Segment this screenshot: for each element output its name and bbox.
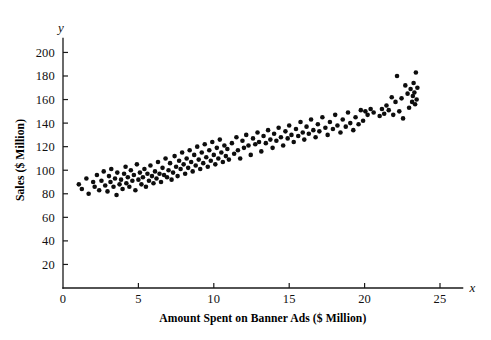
data-point [105,189,110,194]
data-point [91,180,96,185]
data-point [246,143,251,148]
data-point [340,117,345,122]
data-point [205,164,210,169]
data-point [240,138,245,143]
x-axis-title: Amount Spent on Banner Ads ($ Million) [159,312,366,325]
data-point [268,137,273,142]
data-point [224,154,229,159]
data-point [171,170,176,175]
data-point [283,129,288,134]
data-point [133,188,138,193]
data-point [386,108,391,113]
data-point [331,127,336,132]
data-point [177,159,182,164]
data-point [412,90,417,95]
data-point [309,117,314,122]
x-tick-label: 20 [358,292,371,306]
data-point [101,169,106,174]
data-point [80,187,85,192]
data-point [169,177,174,182]
data-point [180,150,185,155]
data-point [391,113,396,118]
data-point [264,141,269,146]
data-point [186,166,191,171]
data-point [276,126,281,131]
data-point [257,140,262,145]
data-point [382,111,387,116]
data-point [126,175,131,180]
data-point [99,179,104,184]
data-point [124,181,129,186]
data-point [174,164,179,169]
data-point [148,163,153,168]
data-point [408,87,413,92]
data-point [259,149,264,154]
data-point [154,176,159,181]
data-point [335,123,340,128]
data-point [187,148,192,153]
data-point [411,81,416,86]
data-point [279,135,284,140]
data-point [113,176,118,181]
data-point [190,169,195,174]
y-axis-title: Sales ($ Million) [14,119,27,201]
x-tick-label: 15 [283,292,296,306]
data-point [397,109,402,114]
data-point [168,161,173,166]
y-axis-variable-label: y [56,20,64,35]
data-point [399,96,404,101]
data-point [166,168,171,173]
data-point [92,184,97,189]
data-point [270,146,275,151]
data-point [384,103,389,108]
data-point [130,179,135,184]
data-point [157,171,162,176]
data-point [202,142,207,147]
data-point [204,155,209,160]
data-point [145,171,150,176]
data-point [320,115,325,120]
data-point [401,116,406,121]
data-point [348,121,353,126]
data-point [95,173,100,178]
data-point [317,129,322,134]
data-point [139,182,144,187]
data-point [230,141,235,146]
data-point [302,137,307,142]
data-point [114,193,119,198]
data-point [103,183,108,188]
data-point [272,131,277,136]
data-point [251,136,256,141]
data-point [414,70,419,75]
data-point [108,180,113,185]
data-point [325,133,330,138]
data-point [232,151,237,156]
data-point [285,136,290,141]
data-point [281,143,286,148]
data-point [300,130,305,135]
data-point [313,135,318,140]
data-point [212,153,217,158]
x-axis-variable-label: x [469,280,476,295]
data-point [236,148,241,153]
data-point [407,106,412,111]
data-point [141,175,146,180]
data-point [248,153,253,158]
data-point [178,167,183,172]
data-point [234,135,239,140]
data-point [192,153,197,158]
data-point [323,126,328,131]
data-point [216,156,221,161]
data-point [189,160,194,165]
x-tick-label: 25 [434,292,447,306]
data-point [255,130,260,135]
data-point [151,181,156,186]
y-tick-label: 40 [42,234,55,248]
data-point [294,127,299,132]
data-point [156,160,161,165]
data-point [172,154,177,159]
data-point [222,143,227,148]
y-tick-label: 200 [36,46,55,60]
data-point [338,130,343,135]
data-point [359,108,364,113]
